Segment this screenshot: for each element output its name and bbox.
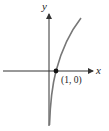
y-axis-label: y: [41, 0, 47, 12]
graph-canvas: x y (1, 0): [0, 0, 109, 131]
point-marker: [54, 69, 59, 74]
point-label: (1, 0): [61, 75, 82, 86]
x-axis-label: x: [95, 64, 101, 76]
